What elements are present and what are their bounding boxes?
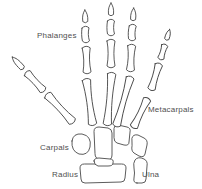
middle-metacarpal-bone xyxy=(103,72,116,126)
metacarpals-label: Metacarpals xyxy=(148,105,194,114)
radius-bone xyxy=(80,164,126,183)
radius-label: Radius xyxy=(52,170,78,179)
hand-skeleton-drawing: Phalanges Metacarpals Carpals Radius Uln… xyxy=(0,0,202,189)
hand-skeleton-diagram: Phalanges Metacarpals Carpals Radius Uln… xyxy=(0,0,202,189)
thumb-bones xyxy=(9,54,76,125)
ring-finger-phalanges xyxy=(126,8,137,72)
index-finger-phalanges xyxy=(81,10,91,74)
pinky-finger-phalanges xyxy=(147,28,173,91)
carpals-label: Carpals xyxy=(40,143,69,152)
ring-metacarpal-bone xyxy=(112,75,134,128)
middle-finger-phalanges xyxy=(107,3,115,68)
ulna-label: Ulna xyxy=(142,170,160,179)
phalanges-label: Phalanges xyxy=(37,31,77,40)
index-metacarpal-bone xyxy=(82,78,97,126)
